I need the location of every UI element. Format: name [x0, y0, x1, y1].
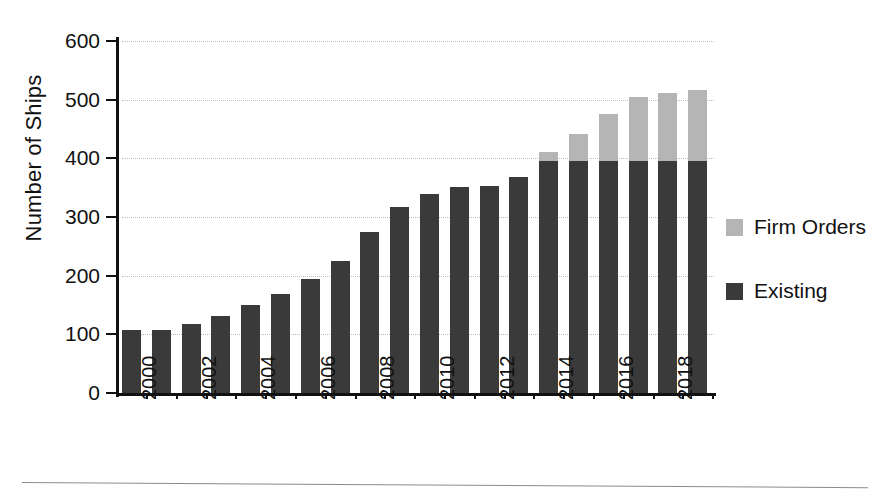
bar-segment-firm-orders[interactable]: [599, 114, 618, 161]
x-axis-labels: 2000200220042006200820102012201420162018: [122, 396, 722, 476]
y-tick-mark: [106, 99, 117, 101]
x-tick-label: 2000: [138, 356, 161, 401]
bar[interactable]: [658, 93, 677, 393]
bar-segment-firm-orders[interactable]: [569, 134, 588, 160]
bar[interactable]: [599, 114, 618, 393]
x-tick-label: 2014: [555, 356, 578, 401]
x-tick-label: 2006: [317, 356, 340, 401]
bar[interactable]: [688, 90, 707, 393]
y-tick-label: 600: [65, 29, 100, 53]
legend-item[interactable]: Existing: [726, 279, 876, 303]
x-tick-label: 2004: [257, 356, 280, 401]
y-tick-mark: [106, 216, 117, 218]
bar[interactable]: [629, 97, 648, 393]
legend-swatch-icon: [726, 219, 743, 236]
y-tick-label: 100: [65, 322, 100, 346]
bar[interactable]: [569, 134, 588, 393]
x-tick-label: 2002: [198, 356, 221, 401]
y-tick-mark: [106, 275, 117, 277]
y-tick-label: 500: [65, 88, 100, 112]
y-tick-label: 200: [65, 264, 100, 288]
y-tick-label: 400: [65, 146, 100, 170]
y-tick-mark: [106, 392, 117, 394]
y-tick-mark: [106, 157, 117, 159]
bar-segment-firm-orders[interactable]: [658, 93, 677, 160]
y-tick-label: 300: [65, 205, 100, 229]
plot-area: 6005004003002001000: [122, 41, 714, 393]
x-tick-label: 2012: [496, 356, 519, 401]
chart-figure: Number of Ships 6005004003002001000 2000…: [0, 0, 888, 499]
chart-legend: Firm OrdersExisting: [726, 215, 876, 343]
x-tick-label: 2016: [615, 356, 638, 401]
y-tick-mark: [106, 333, 117, 335]
page-divider-rule: [22, 482, 868, 488]
legend-item[interactable]: Firm Orders: [726, 215, 876, 239]
y-tick-label: 0: [88, 381, 100, 405]
x-tick-label: 2018: [674, 356, 697, 401]
x-tick-label: 2008: [376, 356, 399, 401]
bar-segment-firm-orders[interactable]: [688, 90, 707, 160]
x-tick-label: 2010: [436, 356, 459, 401]
legend-label: Existing: [754, 279, 828, 303]
legend-swatch-icon: [726, 283, 743, 300]
bar-segment-firm-orders[interactable]: [539, 152, 558, 160]
legend-label: Firm Orders: [754, 215, 866, 239]
bar-series-group: [122, 41, 714, 393]
bar-segment-firm-orders[interactable]: [629, 97, 648, 161]
y-tick-mark: [106, 40, 117, 42]
y-axis-title: Number of Ships: [21, 28, 47, 288]
